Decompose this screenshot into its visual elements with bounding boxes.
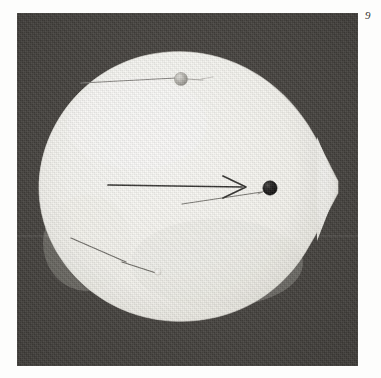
page-canvas: 9: [0, 0, 381, 378]
page-number: 9: [365, 8, 379, 22]
pin-head-gray: [174, 72, 187, 85]
pin-head-black: [263, 181, 277, 195]
pin-head-white: [155, 269, 162, 276]
specimen-figure: [17, 13, 358, 366]
photographic-plate: [17, 13, 358, 366]
